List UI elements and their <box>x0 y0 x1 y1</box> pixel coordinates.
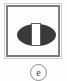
contrast-bar-shape <box>31 23 41 46</box>
circled-e-mark: e <box>30 64 47 81</box>
contrast-icon-frame <box>6 5 60 57</box>
screen: e <box>0 0 67 81</box>
contrast-glyph <box>8 7 58 55</box>
circled-e-letter: e <box>36 68 40 78</box>
contrast-icon[interactable] <box>4 3 62 59</box>
